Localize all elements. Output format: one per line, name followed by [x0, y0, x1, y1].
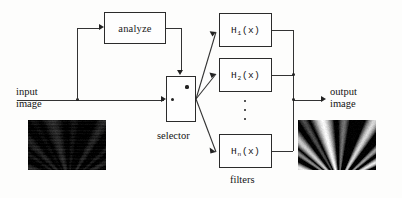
output-image-thumbnail[interactable]	[298, 120, 376, 170]
selector-pivot-contact	[185, 85, 188, 88]
filter-block-2[interactable]: H2(x)	[219, 58, 272, 92]
selector-input-arrowhead	[161, 96, 166, 102]
analyze-block[interactable]: analyze	[104, 12, 166, 44]
filter-block-1[interactable]: H1(x)	[219, 13, 272, 47]
input-image-thumbnail[interactable]	[28, 120, 106, 170]
selector-control-arrowhead	[177, 70, 183, 75]
input-image-label-line1: input	[16, 86, 42, 98]
output-tap-junction	[292, 98, 295, 101]
filters-ellipsis-icon	[244, 100, 246, 120]
filter-1-output-wire	[272, 30, 293, 31]
input-main-wire	[17, 100, 164, 101]
filter-block-n-label: Hn(x)	[231, 146, 260, 157]
filter-block-2-label: H2(x)	[231, 70, 260, 81]
filter-2-output-wire	[272, 75, 293, 76]
filter-block-1-label: H1(x)	[231, 25, 260, 36]
filter-n-output-wire	[272, 151, 293, 152]
analyze-output-vertical	[181, 28, 182, 70]
analyze-block-label: analyze	[118, 23, 151, 34]
filters-group-label: filters	[230, 174, 255, 186]
filters-merge-junction	[292, 73, 295, 76]
analyze-output-horizontal	[166, 28, 181, 29]
output-image-label-line2: image	[330, 98, 357, 110]
filter-block-n[interactable]: Hn(x)	[219, 134, 272, 168]
analyze-input-arrowhead	[99, 24, 104, 30]
output-wire	[293, 100, 322, 101]
input-image-label: input image	[16, 86, 42, 110]
filters-merge-bus	[293, 30, 294, 151]
analyze-branch-vertical	[77, 28, 78, 100]
analyze-branch-horizontal	[77, 28, 99, 29]
selector-label: selector	[157, 130, 190, 142]
output-image-label: output image	[330, 86, 357, 110]
output-arrowhead	[321, 96, 326, 102]
output-image-label-line1: output	[330, 86, 357, 98]
diagram-canvas: analyze selector H1(x) H2(x) Hn(x) filte…	[0, 0, 402, 198]
